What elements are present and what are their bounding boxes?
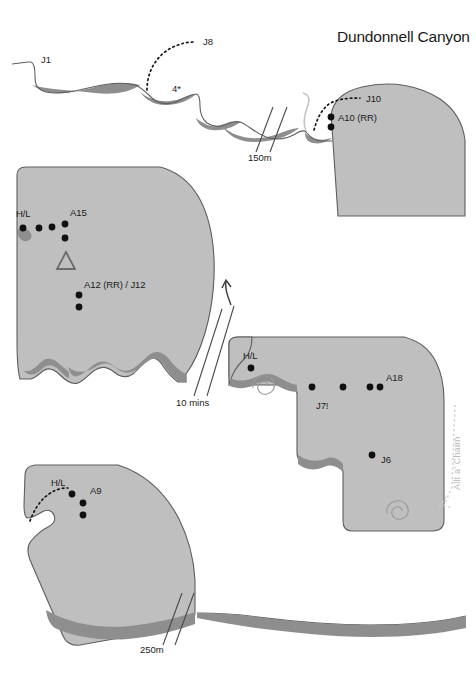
marker-dot (20, 225, 27, 232)
pool-lower-right (197, 613, 466, 637)
label-scale-250m: 250m (140, 644, 164, 655)
label-hl-lower-left: H/L (51, 477, 65, 488)
marker-dot (248, 365, 255, 372)
label-scale-10-mins: 10 mins (176, 397, 210, 408)
rock-mass-middle-left (17, 167, 214, 384)
rope-hook-upper (303, 93, 309, 131)
pool-upper-3 (196, 118, 241, 130)
topo-figure-page: Dundonnell Canyon J1 J8 4* J10 A10 (RR) … (0, 0, 476, 684)
label-hl-middle-right: H/L (243, 350, 257, 361)
marker-dot (367, 384, 374, 391)
scale-break-150m (256, 107, 287, 152)
marker-dot (80, 500, 87, 507)
pool-upper-5 (305, 133, 332, 143)
rock-mass-middle-right (229, 337, 444, 531)
label-a9: A9 (90, 485, 101, 496)
label-4-star: 4* (172, 83, 181, 94)
label-j1: J1 (41, 54, 51, 65)
marker-dot (62, 221, 69, 228)
label-j7: J7! (316, 400, 328, 411)
marker-dot (80, 512, 87, 519)
label-j6: J6 (381, 454, 391, 465)
marker-dot (328, 114, 335, 121)
label-j10: J10 (366, 93, 381, 104)
label-a12-rr-j12: A12 (RR) / J12 (84, 279, 145, 290)
marker-dot (36, 225, 43, 232)
label-a15: A15 (70, 207, 87, 218)
figure-title: Dundonnell Canyon (337, 28, 470, 45)
marker-dot (328, 124, 335, 131)
marker-dot (69, 491, 76, 498)
marker-dot (369, 452, 376, 459)
marker-dot (62, 235, 69, 242)
label-allt-a-chairn: Allt a' Chairn (452, 436, 462, 490)
label-scale-150m: 150m (248, 152, 272, 163)
marker-dot (309, 384, 316, 391)
panel-3-middle-right: H/L J7! A18 J6 Allt a' Chairn (229, 337, 462, 531)
canyon-topo-svg: Dundonnell Canyon J1 J8 4* J10 A10 (RR) … (0, 0, 476, 684)
label-j8: J8 (203, 36, 213, 47)
marker-dot (76, 292, 83, 299)
marker-dot (49, 224, 56, 231)
panel-2-middle-left: H/L A15 A12 (RR) / J12 10 mins (16, 167, 234, 408)
label-hl-middle-left: H/L (16, 208, 30, 219)
rock-mass-upper-right (331, 84, 465, 216)
label-a18: A18 (386, 372, 403, 383)
direction-arrow-upstream (222, 280, 231, 305)
marker-dot (377, 384, 384, 391)
marker-dot (76, 304, 83, 311)
label-a10-rr: A10 (RR) (338, 112, 377, 123)
marker-dot (340, 384, 347, 391)
